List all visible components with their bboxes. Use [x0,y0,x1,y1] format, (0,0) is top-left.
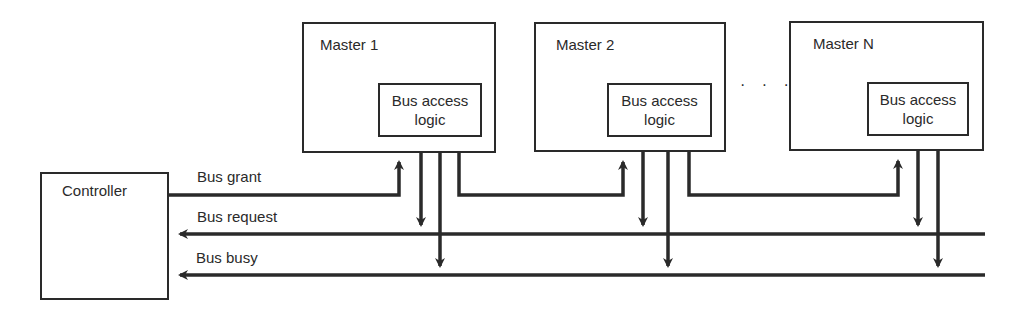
master-1-bus-access-logic: Bus access logic [378,83,482,137]
logic-label-line1: Bus access [880,90,957,109]
logic-label-line2: logic [880,109,957,128]
bus-busy-label: Bus busy [196,249,258,266]
controller-box: Controller [40,172,169,300]
logic-label-line1: Bus access [392,91,469,110]
grant-line-master1-to-master2 [459,152,623,195]
grant-line-master2-to-masterN [689,151,898,195]
master-2-bus-access-logic: Bus access logic [607,83,712,137]
logic-label-line1: Bus access [621,91,698,110]
controller-label: Controller [62,182,127,199]
master-n-bus-access-logic: Bus access logic [867,82,969,136]
logic-label-line2: logic [392,110,469,129]
master-n-label: Master N [813,35,874,52]
bus-request-label: Bus request [197,208,277,225]
ellipsis: · · · [740,76,795,94]
master-2-label: Master 2 [556,36,614,53]
bus-grant-label: Bus grant [197,168,261,185]
master-1-label: Master 1 [320,36,378,53]
logic-label-line2: logic [621,110,698,129]
